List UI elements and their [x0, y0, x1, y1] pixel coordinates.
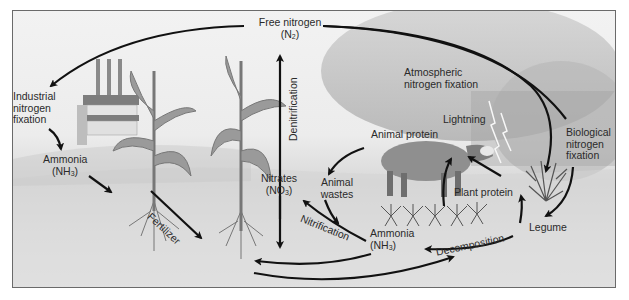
lightning-label: Lightning: [443, 114, 486, 126]
animal-protein-label: Animal protein: [371, 129, 438, 141]
atmospheric-nitrogen-fixation-label: Atmospheric nitrogen fixation: [404, 67, 478, 90]
nitrogen-cycle-diagram: Free nitrogen (N2) Industrial nitrogen f…: [12, 10, 616, 288]
arrow-to-ammonia-left: [49, 129, 61, 149]
free-nitrogen-formula: (N2): [246, 29, 334, 43]
arrow-to-industrial-fixation: [51, 26, 244, 86]
ammonia-left-label: Ammonia (NH3): [43, 154, 87, 179]
nitrates-label: Nitrates (NO3): [257, 173, 301, 198]
factory-icon: [77, 59, 139, 145]
animal-wastes-label: Animal wastes: [317, 177, 357, 200]
biological-nitrogen-fixation-label: Biological nitrogen fixation: [566, 127, 611, 162]
diagram-artwork: [13, 11, 615, 287]
industrial-nitrogen-fixation-label: Industrial nitrogen fixation: [13, 91, 56, 126]
ammonia-center-label: Ammonia (NH3): [370, 228, 414, 253]
arrow-to-animal-wastes: [329, 148, 364, 174]
legume-label: Legume: [529, 222, 567, 234]
plant-protein-label: Plant protein: [454, 187, 513, 199]
denitrification-label: Denitrification: [288, 77, 300, 141]
free-nitrogen-label: Free nitrogen (N2): [246, 17, 334, 42]
